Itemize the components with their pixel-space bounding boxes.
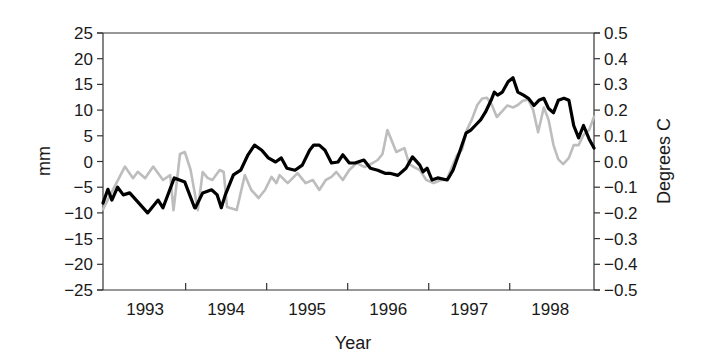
x-tick-label: 1997 xyxy=(450,300,488,319)
x-tick-label: 1993 xyxy=(126,300,164,319)
series-layer xyxy=(103,78,594,213)
left-tick-label: 20 xyxy=(74,50,93,69)
x-tick-label: 1998 xyxy=(531,300,569,319)
chart: 2520151050−5−10−15−20−25 0.50.40.30.20.1… xyxy=(0,0,713,364)
left-tick-label: 10 xyxy=(74,101,93,120)
x-tick-label: 1994 xyxy=(207,300,245,319)
x-axis-title: Year xyxy=(335,333,371,353)
right-tick-label: −0.4 xyxy=(604,255,638,274)
left-tick-label: −20 xyxy=(64,255,93,274)
x-tick-label: 1995 xyxy=(288,300,326,319)
x-tick-label: 1996 xyxy=(369,300,407,319)
left-tick-label: 0 xyxy=(84,153,93,172)
x-axis: 199319941995199619971998 xyxy=(126,283,569,319)
right-tick-label: −0.2 xyxy=(604,204,638,223)
left-y-axis: 2520151050−5−10−15−20−25 xyxy=(64,24,103,300)
right-tick-label: 0.0 xyxy=(604,153,628,172)
right-tick-label: −0.5 xyxy=(604,281,638,300)
right-tick-label: −0.1 xyxy=(604,178,638,197)
left-axis-title: mm xyxy=(34,146,54,176)
right-tick-label: −0.3 xyxy=(604,230,638,249)
right-tick-label: 0.1 xyxy=(604,127,628,146)
right-tick-label: 0.2 xyxy=(604,101,628,120)
temperature-line xyxy=(103,98,594,211)
left-tick-label: −25 xyxy=(64,281,93,300)
left-tick-label: −5 xyxy=(74,178,93,197)
right-tick-label: 0.4 xyxy=(604,50,628,69)
left-tick-label: 5 xyxy=(84,127,93,146)
right-axis-title: Degrees C xyxy=(654,118,674,204)
left-tick-label: −10 xyxy=(64,204,93,223)
left-tick-label: 25 xyxy=(74,24,93,43)
left-tick-label: 15 xyxy=(74,75,93,94)
right-tick-label: 0.5 xyxy=(604,24,628,43)
left-tick-label: −15 xyxy=(64,230,93,249)
right-tick-label: 0.3 xyxy=(604,75,628,94)
right-y-axis: 0.50.40.30.20.10.0−0.1−0.2−0.3−0.4−0.5 xyxy=(594,24,638,300)
